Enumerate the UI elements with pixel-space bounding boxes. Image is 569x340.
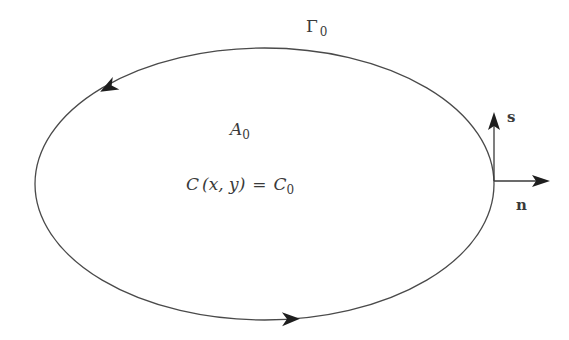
normal-vector-label: n bbox=[516, 196, 527, 214]
boundary-label: Γ0 bbox=[306, 16, 327, 39]
concentration-equation: C(x, y)=C0 bbox=[186, 174, 294, 197]
diagram-canvas: Γ0 A0 C(x, y)=C0 s n bbox=[0, 0, 569, 340]
normal-vector-n bbox=[494, 175, 550, 187]
area-label: A0 bbox=[228, 119, 250, 142]
tangent-vector-s bbox=[488, 112, 500, 181]
tangent-vector-label: s bbox=[507, 108, 515, 126]
